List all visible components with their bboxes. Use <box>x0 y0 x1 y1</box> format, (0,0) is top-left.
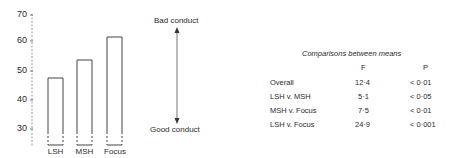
table-row-label: MSH v. Focus <box>270 106 317 115</box>
table-row-f: 12·4 <box>355 78 370 87</box>
bar-chart <box>0 0 452 158</box>
table-row-p: < 0·05 <box>410 92 431 101</box>
category-label-msh: MSH <box>72 147 97 156</box>
table-row-label: Overall <box>270 78 294 87</box>
bad-conduct-label: Bad conduct <box>154 16 198 25</box>
y-tick-label: 70 <box>5 9 27 19</box>
category-label-focus: Focus <box>101 147 129 156</box>
table-row-p: < 0·01 <box>410 106 431 115</box>
y-tick-label: 40 <box>5 94 27 104</box>
good-conduct-label: Good conduct <box>150 125 200 134</box>
y-tick-label: 30 <box>5 123 27 133</box>
table-header-f: F <box>361 63 366 72</box>
table-row-p: < 0·001 <box>410 120 436 129</box>
bar-focus <box>107 37 122 145</box>
table-row-f: 24·9 <box>355 120 370 129</box>
bar-lsh <box>48 78 63 145</box>
table-title: Comparisons between means <box>302 49 401 58</box>
table-row-label: LSH v. Focus <box>270 120 314 129</box>
table-header-p: P <box>423 63 428 72</box>
y-tick-label: 60 <box>5 35 27 45</box>
table-row-f: 7·5 <box>358 106 369 115</box>
table-row-f: 5·1 <box>358 92 369 101</box>
table-row-label: LSH v. MSH <box>270 92 311 101</box>
bar-msh <box>77 60 92 145</box>
table-row-p: < 0·01 <box>410 78 431 87</box>
conduct-arrow-icon <box>175 27 180 124</box>
y-tick-label: 50 <box>5 65 27 75</box>
category-label-lsh: LSH <box>43 147 68 156</box>
